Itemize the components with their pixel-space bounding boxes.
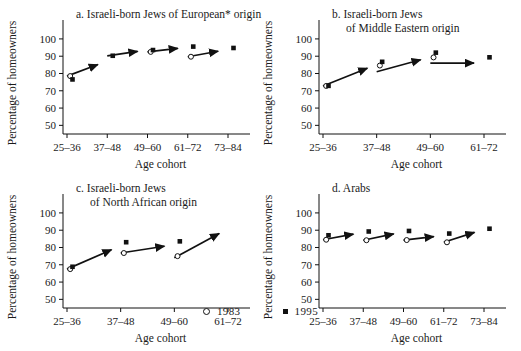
svg-text:a. Israeli-born Jews of Europe: a. Israeli-born Jews of European* origin — [76, 8, 261, 21]
svg-text:80: 80 — [45, 241, 57, 253]
axes — [63, 194, 250, 308]
filled-square-icon — [283, 309, 288, 314]
panel-title: d. Arabs — [332, 182, 371, 194]
legend: 19831995 — [0, 305, 521, 317]
series-1995 — [326, 50, 492, 88]
svg-text:70: 70 — [301, 85, 313, 97]
svg-text:37–48: 37–48 — [94, 141, 122, 153]
svg-text:60: 60 — [45, 102, 57, 114]
panel-title: c. Israeli-born Jewsof North African ori… — [76, 182, 197, 209]
svg-text:61–72: 61–72 — [470, 141, 498, 153]
svg-text:25–36: 25–36 — [53, 141, 81, 153]
svg-text:60: 60 — [45, 276, 57, 288]
chart-panel-c: 506070809010025–3637–4849–6061–72Age coh… — [0, 178, 265, 348]
svg-text:90: 90 — [301, 50, 313, 62]
figure-panel-grid: 506070809010025–3637–4849–6061–7273–84Ag… — [0, 0, 521, 351]
svg-text:d. Arabs: d. Arabs — [332, 182, 371, 194]
y-axis-label: Percentage of homeowners — [6, 20, 19, 145]
svg-text:100: 100 — [296, 207, 313, 219]
svg-text:80: 80 — [45, 67, 57, 79]
y-axis-label: Percentage of homeowners — [262, 194, 275, 319]
svg-text:60: 60 — [301, 276, 313, 288]
svg-text:70: 70 — [45, 85, 57, 97]
legend-entry-1995: 1995 — [283, 305, 319, 317]
cohort-arrows — [323, 232, 474, 242]
series-1983 — [68, 49, 194, 78]
svg-text:80: 80 — [301, 241, 313, 253]
svg-text:50: 50 — [45, 293, 57, 305]
svg-text:37–48: 37–48 — [363, 141, 391, 153]
series-1983 — [324, 237, 450, 245]
series-1995 — [70, 44, 236, 81]
axes — [63, 20, 250, 134]
svg-text:50: 50 — [301, 293, 313, 305]
svg-text:100: 100 — [296, 33, 313, 45]
svg-text:49–60: 49–60 — [417, 141, 445, 153]
chart-panel-b: 506070809010025–3637–4849–6061–72Age coh… — [256, 4, 521, 174]
y-axis-ticks: 5060708090100 — [40, 207, 64, 305]
svg-text:90: 90 — [45, 224, 57, 236]
y-axis-label: Percentage of homeowners — [262, 20, 275, 145]
svg-text:100: 100 — [40, 207, 57, 219]
panel-title: a. Israeli-born Jews of European* origin — [76, 8, 261, 21]
x-axis-ticks: 25–3637–4849–6061–72 — [309, 134, 498, 153]
y-axis-ticks: 5060708090100 — [40, 33, 64, 131]
x-axis-label: Age cohort — [135, 158, 187, 171]
x-axis-ticks: 25–3637–4849–6061–7273–84 — [53, 134, 242, 153]
x-axis-label: Age cohort — [391, 332, 443, 345]
open-circle-icon — [203, 308, 210, 315]
svg-text:70: 70 — [301, 259, 313, 271]
panel-title: b. Israeli-born Jewsof Middle Eastern or… — [332, 8, 460, 35]
legend-entry-1983: 1983 — [203, 305, 241, 317]
svg-text:49–60: 49–60 — [134, 141, 162, 153]
svg-text:of Middle Eastern origin: of Middle Eastern origin — [346, 22, 460, 35]
x-axis-label: Age cohort — [135, 332, 187, 345]
series-1995 — [326, 226, 492, 237]
svg-text:70: 70 — [45, 259, 57, 271]
svg-text:of North African origin: of North African origin — [90, 196, 197, 209]
svg-text:90: 90 — [301, 224, 313, 236]
cohort-arrows — [67, 234, 219, 270]
chart-panel-a: 506070809010025–3637–4849–6061–7273–84Ag… — [0, 4, 265, 174]
svg-text:c. Israeli-born Jews: c. Israeli-born Jews — [76, 182, 166, 194]
y-axis-ticks: 5060708090100 — [296, 33, 320, 131]
svg-text:90: 90 — [45, 50, 57, 62]
y-axis-ticks: 5060708090100 — [296, 207, 320, 305]
svg-text:50: 50 — [301, 119, 313, 131]
svg-text:b. Israeli-born Jews: b. Israeli-born Jews — [332, 8, 423, 20]
legend-label: 1983 — [217, 305, 241, 317]
legend-label: 1995 — [295, 305, 319, 317]
cohort-arrows — [323, 60, 474, 86]
axes — [319, 194, 506, 308]
cohort-arrows — [67, 48, 218, 76]
svg-text:100: 100 — [40, 33, 57, 45]
svg-text:60: 60 — [301, 102, 313, 114]
x-axis-label: Age cohort — [391, 158, 443, 171]
svg-text:25–36: 25–36 — [309, 141, 337, 153]
chart-panel-d: 506070809010025–3637–4849–6061–7273–84Ag… — [256, 178, 521, 348]
svg-text:61–72: 61–72 — [174, 141, 202, 153]
y-axis-label: Percentage of homeowners — [6, 194, 19, 319]
svg-text:80: 80 — [301, 67, 313, 79]
svg-text:50: 50 — [45, 119, 57, 131]
svg-text:73–84: 73–84 — [214, 141, 242, 153]
